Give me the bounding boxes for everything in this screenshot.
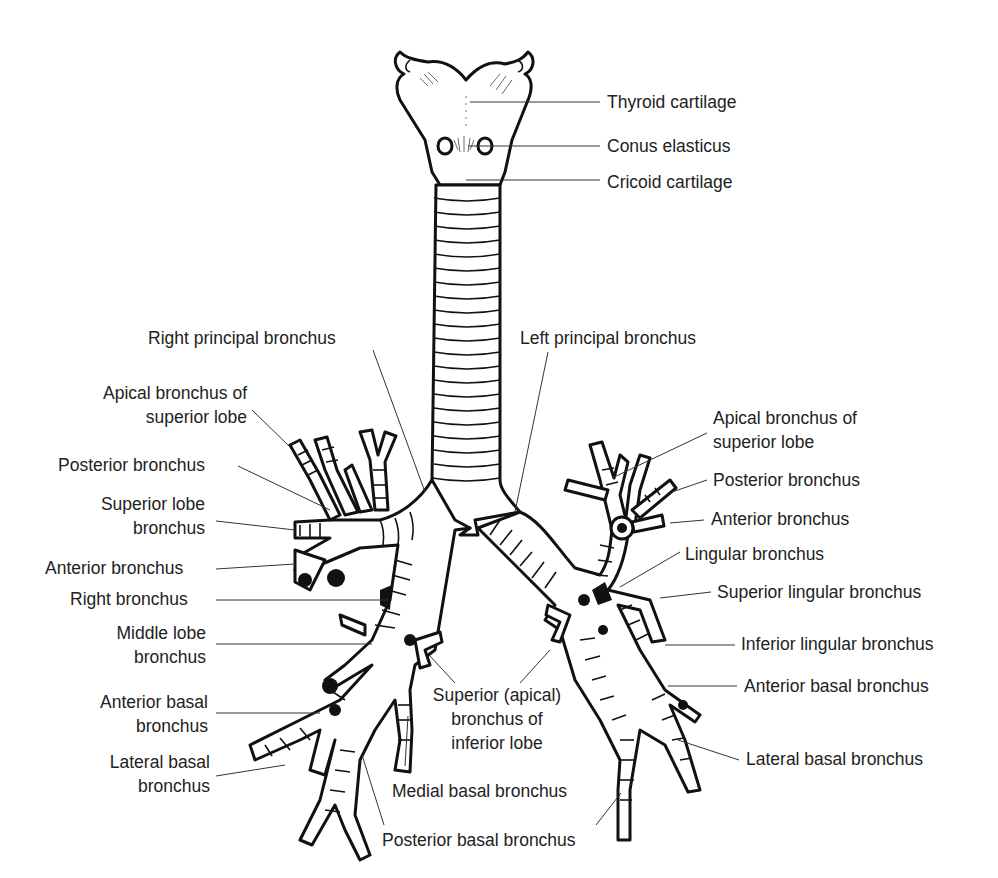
label-line: Conus elasticus xyxy=(607,134,731,158)
label-line: Posterior bronchus xyxy=(713,468,860,492)
label-thyroid-cartilage: Thyroid cartilage xyxy=(607,90,736,114)
label-right-anterior-basal-bronchus: Anterior basalbronchus xyxy=(78,690,208,738)
label-left-anterior-bronchus: Anterior bronchus xyxy=(711,507,849,531)
leader-line-right-lateral-basal-bronchus xyxy=(216,765,285,776)
label-superior-lobe-bronchus: Superior lobebronchus xyxy=(80,492,205,540)
leader-line-left-posterior-bronchus xyxy=(672,480,707,492)
label-left-anterior-basal-bronchus: Anterior basal bronchus xyxy=(744,674,929,698)
label-line: bronchus xyxy=(80,516,205,540)
label-line: Posterior basal bronchus xyxy=(382,828,576,852)
leader-line-superior-apical-bronchus-inferior-lobe xyxy=(520,650,550,683)
leader-line-superior-apical-bronchus-inferior-lobe xyxy=(430,656,455,683)
label-line: Lingular bronchus xyxy=(685,542,824,566)
label-line: Superior (apical) xyxy=(418,683,576,707)
label-line: Anterior bronchus xyxy=(711,507,849,531)
label-left-posterior-bronchus: Posterior bronchus xyxy=(713,468,860,492)
trachea xyxy=(405,185,520,535)
label-right-apical-bronchus-superior-lobe: Apical bronchus ofsuperior lobe xyxy=(72,381,247,429)
label-line: Right principal bronchus xyxy=(148,326,336,350)
label-line: Middle lobe xyxy=(100,621,206,645)
label-line: bronchus xyxy=(100,645,206,669)
label-left-principal-bronchus: Left principal bronchus xyxy=(520,326,696,350)
leader-line-lingular-bronchus xyxy=(620,552,680,587)
label-line: inferior lobe xyxy=(418,731,576,755)
label-line: Medial basal bronchus xyxy=(392,779,567,803)
leader-line-right-anterior-bronchus xyxy=(216,564,295,569)
label-line: Apical bronchus of xyxy=(713,406,857,430)
label-right-anterior-bronchus: Anterior bronchus xyxy=(45,556,183,580)
label-line: Thyroid cartilage xyxy=(607,90,736,114)
label-inferior-lingular-bronchus: Inferior lingular bronchus xyxy=(741,632,934,656)
label-conus-elasticus: Conus elasticus xyxy=(607,134,731,158)
label-line: Lateral basal xyxy=(82,750,210,774)
label-line: bronchus xyxy=(82,774,210,798)
label-line: Anterior basal bronchus xyxy=(744,674,929,698)
leader-line-left-apical-bronchus-superior-lobe xyxy=(612,433,707,478)
label-left-lateral-basal-bronchus: Lateral basal bronchus xyxy=(746,747,923,771)
label-medial-basal-bronchus: Medial basal bronchus xyxy=(392,779,567,803)
leader-line-right-apical-bronchus-superior-lobe xyxy=(252,410,290,447)
label-right-lateral-basal-bronchus: Lateral basalbronchus xyxy=(82,750,210,798)
label-line: Inferior lingular bronchus xyxy=(741,632,934,656)
leader-line-superior-lingular-bronchus xyxy=(660,592,711,598)
label-left-apical-bronchus-superior-lobe: Apical bronchus ofsuperior lobe xyxy=(713,406,857,454)
leader-line-superior-lobe-bronchus xyxy=(216,521,295,530)
label-cricoid-cartilage: Cricoid cartilage xyxy=(607,170,732,194)
label-middle-lobe-bronchus: Middle lobebronchus xyxy=(100,621,206,669)
label-right-posterior-bronchus: Posterior bronchus xyxy=(58,453,205,477)
label-line: Anterior basal xyxy=(78,690,208,714)
label-line: Left principal bronchus xyxy=(520,326,696,350)
larynx xyxy=(395,52,533,185)
label-line: superior lobe xyxy=(713,430,857,454)
label-line: superior lobe xyxy=(72,405,247,429)
label-superior-apical-bronchus-inferior-lobe: Superior (apical)bronchus ofinferior lob… xyxy=(418,683,576,755)
label-posterior-basal-bronchus: Posterior basal bronchus xyxy=(382,828,576,852)
label-superior-lingular-bronchus: Superior lingular bronchus xyxy=(717,580,921,604)
leader-line-posterior-basal-bronchus xyxy=(362,755,384,825)
leader-line-left-principal-bronchus xyxy=(515,352,548,512)
label-line: Anterior bronchus xyxy=(45,556,183,580)
label-right-bronchus: Right bronchus xyxy=(70,587,188,611)
label-line: Superior lingular bronchus xyxy=(717,580,921,604)
label-line: Posterior bronchus xyxy=(58,453,205,477)
label-line: Cricoid cartilage xyxy=(607,170,732,194)
label-line: Apical bronchus of xyxy=(72,381,247,405)
label-line: bronchus xyxy=(78,714,208,738)
label-line: Right bronchus xyxy=(70,587,188,611)
label-line: Superior lobe xyxy=(80,492,205,516)
label-line: bronchus of xyxy=(418,707,576,731)
label-line: Lateral basal bronchus xyxy=(746,747,923,771)
label-right-principal-bronchus: Right principal bronchus xyxy=(148,326,336,350)
label-lingular-bronchus: Lingular bronchus xyxy=(685,542,824,566)
leader-line-left-anterior-bronchus xyxy=(670,520,704,523)
